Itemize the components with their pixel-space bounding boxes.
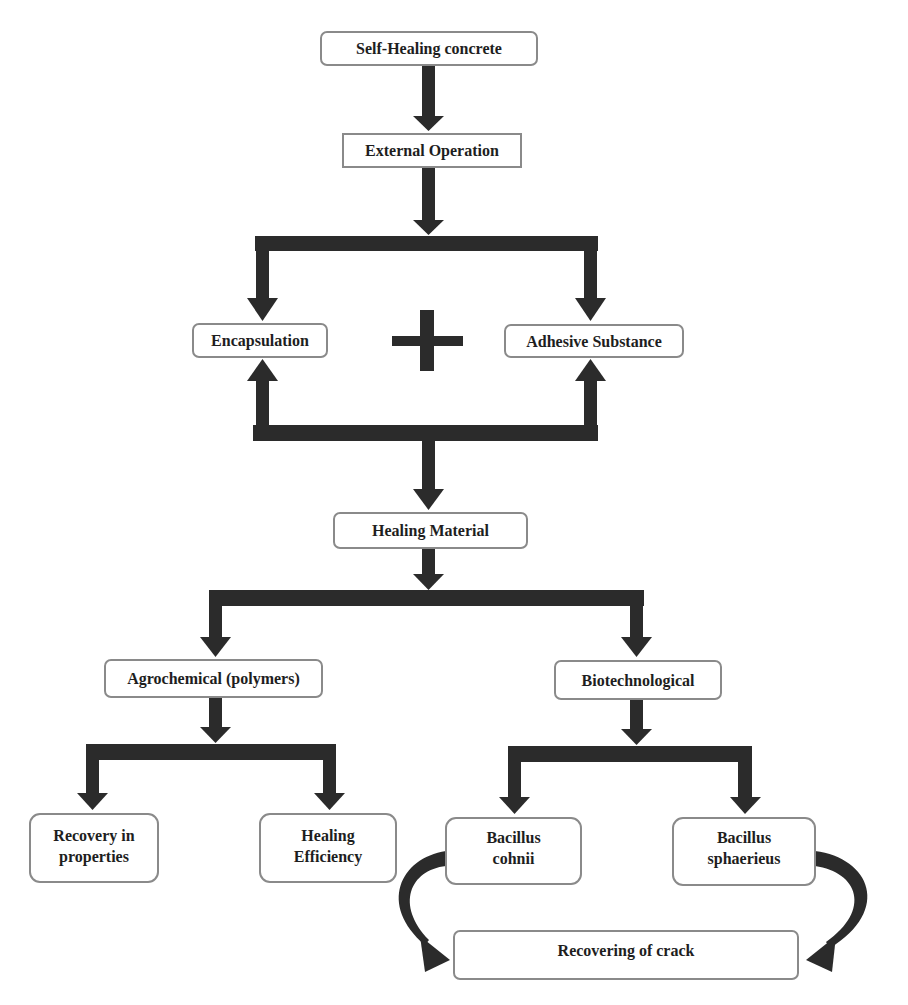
node-label-line1: Recovery in [53, 825, 134, 846]
split-bar-agrochemical [86, 744, 336, 760]
node-self-healing-concrete: Self-Healing concrete [320, 31, 538, 66]
arrow-down-icon [575, 250, 606, 321]
node-external-operation: External Operation [342, 133, 522, 168]
node-label: Self-Healing concrete [356, 38, 502, 59]
arrow-down-icon [413, 548, 444, 590]
node-label-line2: Efficiency [294, 846, 362, 867]
node-label: External Operation [365, 140, 499, 161]
arrow-down-icon [413, 167, 444, 235]
plus-icon [392, 310, 463, 371]
arrow-down-icon [621, 699, 652, 745]
node-label: Encapsulation [211, 330, 309, 351]
node-label-line1: Bacillus [486, 827, 540, 848]
node-healing-efficiency: Healing Efficiency [259, 813, 397, 883]
split-bar-top [255, 236, 598, 251]
node-bacillus-sphaerieus: Bacillus sphaerieus [672, 817, 816, 886]
arrow-down-icon [413, 440, 444, 510]
node-label-line1: Healing [301, 825, 354, 846]
node-encapsulation: Encapsulation [192, 323, 328, 358]
arrow-down-icon [200, 697, 231, 743]
split-bar-middle [209, 590, 644, 606]
split-bar-biotechnological [508, 746, 752, 762]
node-label-line2: sphaerieus [708, 848, 781, 869]
node-label-line2: cohnii [493, 848, 535, 869]
node-label-line2: properties [59, 846, 129, 867]
node-label: Healing Material [372, 520, 489, 541]
node-agrochemical: Agrochemical (polymers) [104, 659, 323, 698]
flowchart-diagram: Self-Healing concrete External Operation… [0, 0, 908, 1005]
node-label: Recovering of crack [558, 940, 695, 961]
node-label: Agrochemical (polymers) [127, 668, 300, 689]
node-recovering-of-crack: Recovering of crack [453, 930, 799, 980]
node-recovery-in-properties: Recovery in properties [29, 813, 159, 883]
arrow-up-icon [247, 359, 278, 427]
arrow-down-icon [413, 65, 444, 131]
node-label: Biotechnological [582, 670, 695, 691]
node-adhesive-substance: Adhesive Substance [504, 324, 684, 358]
node-biotechnological: Biotechnological [554, 660, 722, 700]
node-label: Adhesive Substance [526, 331, 662, 352]
node-bacillus-cohnii: Bacillus cohnii [445, 817, 582, 885]
node-label-line1: Bacillus [717, 827, 771, 848]
node-healing-material: Healing Material [333, 512, 528, 549]
arrow-up-icon [575, 359, 606, 427]
join-bar [253, 425, 598, 441]
curved-arrow-icon [399, 851, 450, 972]
arrow-down-icon [247, 250, 278, 321]
